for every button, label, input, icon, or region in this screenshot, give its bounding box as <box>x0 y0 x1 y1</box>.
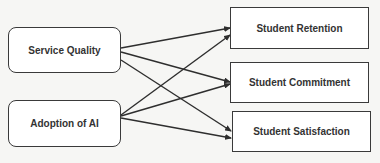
box-student-retention: Student Retention <box>230 7 369 49</box>
box-student-commitment: Student Commitment <box>230 62 369 103</box>
label-adoption-of-ai: Adoption of AI <box>30 118 99 129</box>
box-service-quality: Service Quality <box>8 27 121 73</box>
arrow-ai-to-com <box>121 84 230 116</box>
arrow-ai-to-ret <box>121 35 230 115</box>
label-service-quality: Service Quality <box>28 45 100 56</box>
arrow-sq-to-ret <box>121 28 230 48</box>
arrow-sq-to-com <box>121 52 230 82</box>
box-adoption-of-ai: Adoption of AI <box>8 100 121 147</box>
label-student-satisfaction: Student Satisfaction <box>253 126 350 137</box>
label-student-retention: Student Retention <box>256 23 342 34</box>
box-student-satisfaction: Student Satisfaction <box>232 111 371 152</box>
label-student-commitment: Student Commitment <box>249 77 350 88</box>
